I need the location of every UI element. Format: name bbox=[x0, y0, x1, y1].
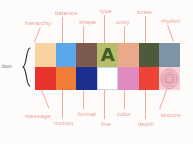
label-color: color bbox=[117, 111, 131, 118]
label-message: message bbox=[25, 113, 51, 120]
top-leader-line-1 bbox=[62, 17, 63, 43]
top-leader-line-4 bbox=[124, 26, 125, 43]
swatch-texture bbox=[159, 67, 180, 91]
label-rhythm: rhythm bbox=[161, 18, 181, 25]
swatch-format bbox=[76, 67, 97, 91]
bottom-leader-line-2 bbox=[83, 90, 84, 109]
swatch-motion bbox=[56, 67, 77, 91]
letter-a-glyph: A bbox=[101, 46, 114, 64]
swatch-message bbox=[35, 67, 56, 91]
swatch-depth bbox=[139, 67, 160, 91]
label-format: format bbox=[78, 111, 96, 118]
swatch-grid: A bbox=[35, 43, 180, 90]
label-hierarchy: hierarchy bbox=[25, 20, 51, 27]
top-leader-line-6 bbox=[167, 25, 174, 42]
label-unity: unity bbox=[116, 19, 130, 26]
label-scale: scale bbox=[137, 9, 152, 16]
label-balance: balance bbox=[55, 10, 77, 17]
bottom-leader-line-1 bbox=[62, 90, 63, 118]
top-leader-line-2 bbox=[83, 26, 84, 43]
label-motion: motion bbox=[54, 120, 73, 127]
swatch-line bbox=[97, 67, 118, 91]
bottom-leader-line-5 bbox=[145, 90, 146, 119]
swatch-balance bbox=[56, 43, 77, 67]
label-type: type bbox=[100, 8, 112, 15]
swatch-hierarchy bbox=[35, 43, 56, 67]
design-principles-diagram: hierarchybalanceshapetypeunityscalerhyth… bbox=[0, 0, 193, 144]
bottom-leader-line-6 bbox=[159, 90, 167, 109]
brace-label: ...tion bbox=[0, 63, 12, 70]
swatch-color bbox=[118, 67, 139, 91]
top-leader-line-0 bbox=[34, 27, 41, 42]
swatch-shape bbox=[76, 43, 97, 67]
label-depth: depth bbox=[138, 121, 154, 128]
swatch-scale bbox=[139, 43, 160, 67]
label-texture: texture bbox=[161, 112, 181, 119]
grouping-brace bbox=[22, 47, 31, 87]
bottom-leader-line-4 bbox=[124, 90, 125, 109]
swatch-type: A bbox=[97, 43, 118, 67]
bottom-leader-line-0 bbox=[41, 90, 49, 109]
bottom-leader-line-3 bbox=[104, 90, 105, 119]
label-shape: shape bbox=[79, 19, 96, 26]
top-leader-line-3 bbox=[104, 15, 105, 43]
swatch-rhythm bbox=[159, 43, 180, 67]
fingerprint-texture-icon bbox=[159, 67, 180, 91]
label-line: line bbox=[101, 121, 111, 128]
swatch-unity bbox=[118, 43, 139, 67]
top-leader-line-5 bbox=[145, 16, 146, 43]
